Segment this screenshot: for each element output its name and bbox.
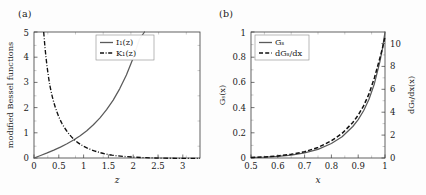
panel-a: (a) — [0, 0, 213, 195]
panel-a-ytick-0: 0 — [24, 153, 29, 163]
panel-b-legend-label-gs: Gₛ — [275, 37, 285, 47]
panel-a-xaxis-title: z — [114, 175, 120, 185]
panel-b-xtick-3: 0.8 — [325, 161, 339, 171]
panel-a-plot: I₁(z) K₁(z) 0 0.5 1 1.5 2 2.5 3 0 1 2 3 … — [0, 0, 213, 195]
panel-b-ytick-left-0: 0 — [241, 153, 246, 163]
panel-a-ytick-4: 4 — [24, 52, 29, 62]
panel-a-legend-label-k1: K₁(z) — [116, 48, 136, 58]
panel-b-yticklabels-right: 0 2 4 6 8 10 — [390, 39, 401, 164]
panel-b-xtick-2: 0.7 — [298, 161, 312, 171]
panel-b-xtick-4: 0.9 — [351, 161, 365, 171]
panel-a-xtick-6: 3 — [180, 161, 185, 171]
panel-a-xtick-1: 0.5 — [52, 161, 66, 171]
panel-a-legend-label-i1: I₁(z) — [116, 37, 133, 47]
panel-a-ytick-1: 1 — [24, 128, 29, 138]
panel-a-yaxis-title: modified Bessel functions — [5, 42, 15, 149]
panel-a-xtick-2: 1 — [81, 161, 86, 171]
panel-b-ytick-right-4: 8 — [390, 61, 395, 71]
panel-b-xaxis-title: x — [315, 175, 320, 185]
panel-b-yaxis-title-right: dGₛ/dx(x) — [406, 76, 416, 114]
panel-b-ytick-right-2: 4 — [390, 107, 395, 117]
panel-a-ytick-5: 5 — [24, 28, 29, 38]
panel-b-ytick-right-3: 6 — [390, 84, 395, 94]
panel-a-xtick-5: 2.5 — [151, 161, 165, 171]
panel-a-xtick-0: 0 — [31, 161, 36, 171]
panel-b-ytick-right-1: 2 — [390, 130, 395, 140]
panel-a-xticklabels: 0 0.5 1 1.5 2 2.5 3 — [31, 161, 185, 171]
panel-b-yaxis-title-left: Gₛ(x) — [217, 85, 227, 105]
panel-a-yticklabels: 0 1 2 3 4 5 — [24, 28, 29, 164]
panel-b-xticklabels: 0.5 0.6 0.7 0.8 0.9 1 — [244, 161, 387, 171]
panel-a-ytick-2: 2 — [24, 103, 29, 113]
panel-b-ytick-left-3: 0.6 — [232, 77, 246, 87]
panel-b-ytick-left-2: 0.4 — [232, 103, 246, 113]
panel-b-ytick-right-0: 0 — [390, 153, 395, 163]
panel-b-xtick-5: 1 — [382, 161, 387, 171]
panel-b-label: (b) — [219, 8, 233, 19]
figure-container: (a) — [0, 0, 426, 195]
panel-b-ytick-left-4: 0.8 — [232, 52, 246, 62]
panel-b-plot: Gₛ dGₛ/dx 0.5 0.6 0.7 0.8 0.9 1 0 0.2 0.… — [213, 0, 426, 195]
panel-b-xtick-0: 0.5 — [244, 161, 258, 171]
panel-a-legend: I₁(z) K₁(z) — [96, 35, 154, 60]
panel-b-legend: Gₛ dGₛ/dx — [255, 35, 309, 60]
panel-b-legend-label-dgs: dGₛ/dx — [275, 48, 303, 58]
panel-b-xtick-1: 0.6 — [271, 161, 285, 171]
panel-b-ytick-left-1: 0.2 — [232, 128, 246, 138]
panel-b-ytick-right-5: 10 — [390, 39, 401, 49]
panel-b-yticklabels-left: 0 0.2 0.4 0.6 0.8 1 — [232, 28, 246, 164]
panel-b-ytick-left-5: 1 — [241, 28, 246, 38]
panel-a-xtick-3: 1.5 — [102, 161, 116, 171]
panel-a-xtick-4: 2 — [130, 161, 135, 171]
panel-b: (b) — [213, 0, 426, 195]
panel-a-ytick-3: 3 — [24, 77, 29, 87]
panel-a-label: (a) — [18, 8, 32, 19]
